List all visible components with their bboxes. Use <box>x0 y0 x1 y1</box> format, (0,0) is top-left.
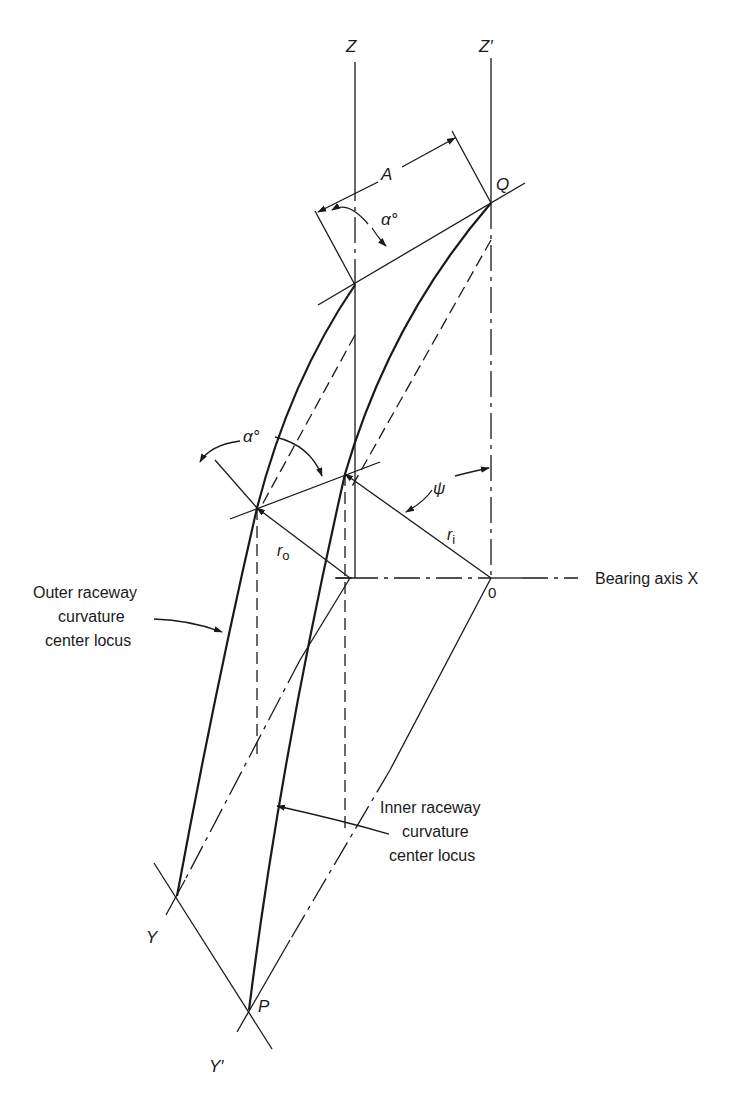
label-q: Q <box>496 175 509 194</box>
y-axis <box>166 578 350 915</box>
outer-locus-callout-3: center locus <box>45 632 131 649</box>
r-inner-radius <box>345 474 491 578</box>
label-y-prime: Y′ <box>209 1057 224 1076</box>
inner-locus-callout-2: curvature <box>402 823 469 840</box>
label-p: P <box>258 997 270 1016</box>
label-y: Y <box>146 928 159 947</box>
label-bearing-axis: Bearing axis X <box>595 570 698 587</box>
bearing-geometry-diagram: Z Z′ A Q α° α° ψ ro ri 0 Bearing axis X … <box>0 0 754 1097</box>
label-z: Z <box>345 37 357 56</box>
label-a: A <box>380 165 392 184</box>
label-origin: 0 <box>488 584 496 601</box>
label-alpha-mid: α° <box>243 427 260 446</box>
upper-contact-line <box>318 183 525 305</box>
outer-locus-callout-2: curvature <box>58 608 125 625</box>
inner-raceway-locus <box>249 203 491 1010</box>
inner-locus-callout-3: center locus <box>389 847 475 864</box>
y-p-line <box>154 863 272 1049</box>
label-psi: ψ <box>433 479 445 498</box>
inner-locus-callout-1: Inner raceway <box>380 799 481 816</box>
label-alpha-top: α° <box>381 210 398 229</box>
middle-contact-line <box>230 462 380 519</box>
outer-raceway-locus <box>177 285 355 896</box>
label-r-outer: ro <box>277 542 290 563</box>
label-z-prime: Z′ <box>478 37 493 56</box>
outer-locus-callout-1: Outer raceway <box>33 584 137 601</box>
dimension-a-extension <box>452 131 491 203</box>
label-r-inner: ri <box>447 526 455 547</box>
alpha-extension <box>315 211 355 285</box>
